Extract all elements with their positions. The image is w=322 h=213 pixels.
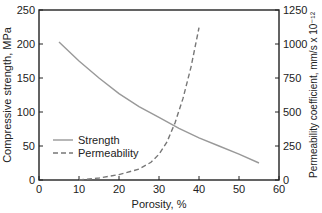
legend-label-strength: Strength	[78, 134, 120, 146]
y2-tick-label: 1250	[283, 4, 307, 16]
y2-axis-label: Permeability coefficient, mm/s x 10⁻¹²	[308, 11, 319, 178]
y-axis-label: Compressive strength, MPa	[1, 26, 13, 163]
y2-tick-label: 500	[283, 106, 301, 118]
x-tick-label: 0	[36, 183, 42, 195]
y-tick-label: 250	[17, 4, 35, 16]
y2-tick-label: 250	[283, 140, 301, 152]
chart: 0102030405060050100150200250025050075010…	[0, 0, 322, 213]
y2-tick-label: 0	[283, 174, 289, 186]
x-tick-label: 30	[153, 183, 165, 195]
legend-label-permeability: Permeability	[78, 147, 139, 159]
x-tick-label: 20	[113, 183, 125, 195]
x-axis-label: Porosity, %	[132, 198, 187, 210]
y-tick-label: 50	[23, 140, 35, 152]
x-tick-label: 50	[233, 183, 245, 195]
x-tick-label: 40	[193, 183, 205, 195]
legend: StrengthPermeability	[53, 134, 139, 159]
plot-frame	[39, 10, 279, 180]
y2-tick-label: 750	[283, 72, 301, 84]
y-tick-label: 150	[17, 72, 35, 84]
axis-ticks: 0102030405060050100150200250025050075010…	[17, 4, 308, 195]
x-tick-label: 10	[73, 183, 85, 195]
y2-tick-label: 1000	[283, 38, 307, 50]
plot-border	[39, 10, 279, 180]
y-tick-label: 0	[29, 174, 35, 186]
y-tick-label: 100	[17, 106, 35, 118]
y-tick-label: 200	[17, 38, 35, 50]
